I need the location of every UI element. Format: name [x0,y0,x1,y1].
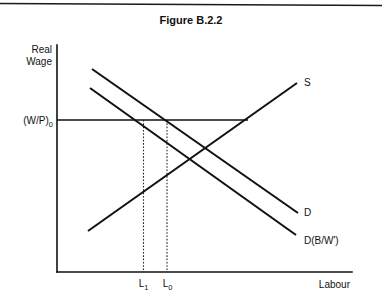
economics-labour-market-diagram: Figure B.2.2 Real Wage (W/P)0 S D D(B/W'… [0,0,382,296]
x-tick-label-L1-subscript: 1 [144,283,148,292]
x-axis-label: Labour [319,279,351,290]
x-tick-label-L0: L0 [163,278,173,292]
supply-curve [88,83,297,231]
demand-curve-label: D [304,207,311,218]
supply-curve-label: S [304,77,311,88]
top-divider-rule [0,4,382,6]
figure-container: Figure B.2.2 Real Wage (W/P)0 S D D(B/W'… [0,0,382,296]
x-tick-label-L0-subscript: 0 [168,283,172,292]
y-tick-label-subscript: 0 [49,120,53,129]
y-tick-label-real-wage: (W/P)0 [23,115,53,129]
x-tick-label-L1: L1 [139,278,149,292]
demand-shifted-curve [90,88,296,235]
demand-curve [92,69,298,213]
demand-shifted-curve-label: D(B/W') [304,235,339,246]
y-axis-label-line1: Real [31,44,52,55]
y-tick-label-base: (W/P) [23,115,49,126]
figure-title: Figure B.2.2 [160,14,223,26]
y-axis-label-line2: Wage [26,56,52,67]
